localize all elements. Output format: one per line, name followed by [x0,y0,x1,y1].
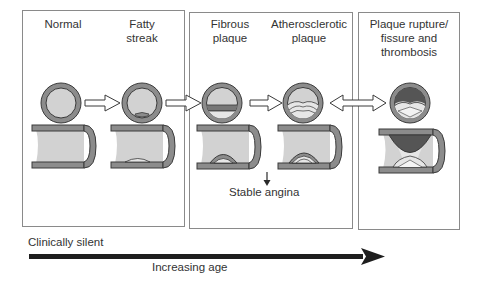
cross-section-normal-icon [41,83,81,123]
cross-section-fibrous-plaque-icon [202,83,242,123]
longitudinal-section-fibrous-plaque-icon [197,125,261,169]
clinically-silent-label: Clinically silent [28,236,103,248]
arrow-right-icon [166,95,201,111]
down-arrow-icon [264,172,271,186]
cross-section-plaque-rupture-icon [390,83,430,123]
longitudinal-section-fatty-streak-icon [111,125,175,168]
longitudinal-section-plaque-rupture-icon [379,129,445,173]
double-arrow-icon [330,95,386,111]
longitudinal-section-atherosclerotic-plaque-icon [278,125,342,169]
stable-angina-label: Stable angina [229,186,299,198]
increasing-age-label: Increasing age [152,261,227,273]
arrow-right-icon [85,95,120,111]
longitudinal-section-normal-icon [32,125,96,168]
cross-section-fatty-streak-icon [122,83,162,123]
arrow-right-icon [250,95,282,111]
cross-section-atherosclerotic-plaque-icon [283,83,323,123]
